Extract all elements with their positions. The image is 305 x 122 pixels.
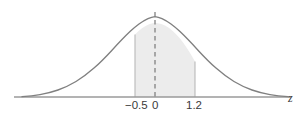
- axis-variable-label-z: z: [288, 92, 293, 105]
- normal-distribution-figure: −0.5 0 1.2 z: [0, 0, 305, 122]
- tick-label-zero: 0: [152, 99, 158, 112]
- shaded-area-region: [135, 23, 195, 97]
- tick-label-1point2: 1.2: [186, 99, 202, 112]
- tick-label-neg-0point5: −0.5: [125, 99, 148, 112]
